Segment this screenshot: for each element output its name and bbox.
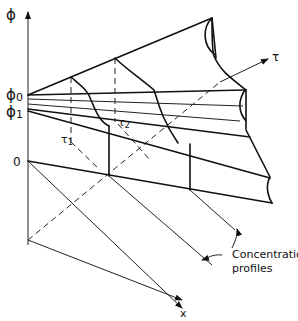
right-edge-wave [246,130,272,203]
origin-label: 0 [13,155,21,169]
annotation-leader-1 [232,229,237,248]
tau2-label: τ2 [118,116,130,130]
fan-line-1 [28,90,245,95]
annotation-line-2: profiles [232,262,273,275]
end-cap-middle [240,90,246,129]
annotation-leader-2 [202,255,222,260]
top-envelope [28,18,212,95]
concentration-profile-diagram: ϕ τ x 0 ϕ0 ϕ1 τ1 τ2 Concentration profil… [0,0,298,321]
profile-curve-3 [212,18,246,90]
annotation-line-1: Concentration [232,248,298,261]
phi-axis-label: ϕ [6,6,16,24]
tau-axis-arrow [220,59,268,82]
x-axis-label: x [180,307,187,320]
tau1-label: τ1 [61,133,73,147]
fan-line-2 [28,99,243,106]
x-axis [28,240,182,300]
phi1-label: ϕ1 [6,103,23,121]
slab-front-line [28,161,272,203]
tau-axis-label: τ [272,50,279,64]
end-cap-upper [205,18,216,58]
profile-curve-2 [115,58,178,143]
tau2-dashed-diagonal [118,124,150,160]
tau1-dashed-diagonal [71,142,100,170]
tau-axis-dashed [28,82,220,240]
phi0-label: ϕ0 [6,86,23,104]
